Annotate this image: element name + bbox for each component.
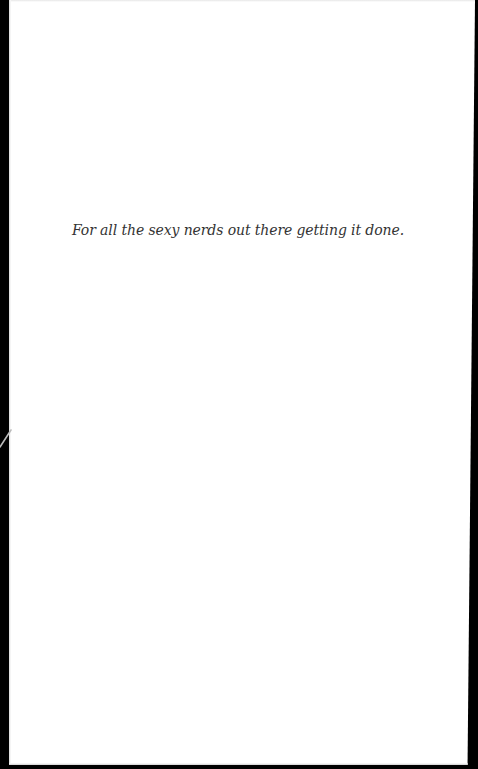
- page-bottom-edge: [9, 763, 475, 765]
- scanned-book-page: For all the sexy nerds out there getting…: [0, 0, 478, 769]
- paper-page: For all the sexy nerds out there getting…: [9, 0, 475, 765]
- dedication-text: For all the sexy nerds out there getting…: [9, 222, 475, 238]
- scan-scratch-mark: [0, 428, 14, 448]
- page-gutter-edge: [9, 0, 11, 765]
- page-top-edge: [9, 0, 475, 2]
